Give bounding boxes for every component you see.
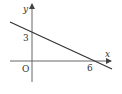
graph-line xyxy=(10,22,112,69)
x-axis-label: x xyxy=(105,49,110,59)
graph-canvas: y x O 3 6 xyxy=(0,0,122,94)
origin-label: O xyxy=(22,64,29,74)
x-intercept-label: 6 xyxy=(87,63,93,73)
y-intercept-label: 3 xyxy=(23,33,29,43)
y-axis-label: y xyxy=(22,4,29,14)
